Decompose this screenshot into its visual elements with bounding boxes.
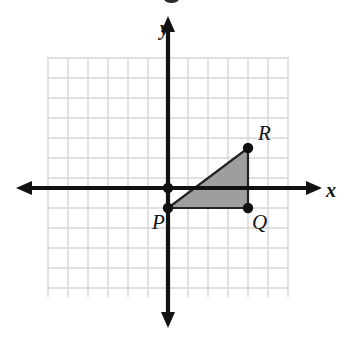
point-label-q: Q [252,212,267,233]
y-axis-label: y [160,18,169,38]
y-axis-arrow-down [161,312,175,328]
y-axis [161,16,175,328]
coordinate-plane-figure: x y P Q R [0,0,348,340]
x-axis-label: x [326,180,336,200]
coordinate-plane-svg [0,0,348,340]
x-axis-arrow-right [306,181,322,195]
point-label-r: R [258,123,271,144]
x-axis-arrow-left [16,181,32,195]
point-R [243,143,253,153]
point-label-p: P [152,212,165,233]
point-origin [163,183,173,193]
